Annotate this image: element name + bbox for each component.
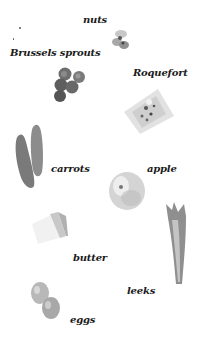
speck xyxy=(19,27,21,29)
apple-image xyxy=(107,170,147,212)
speck xyxy=(13,38,14,40)
leeks-image xyxy=(160,200,194,290)
carrots-image xyxy=(12,122,48,194)
food-illustration-page: nuts Brussels sprouts Roquefort carrots … xyxy=(0,0,207,343)
label-carrots: carrots xyxy=(51,163,90,174)
label-nuts: nuts xyxy=(83,14,107,25)
label-leeks: leeks xyxy=(127,285,155,296)
label-eggs: eggs xyxy=(70,314,95,325)
nuts-image xyxy=(108,26,132,52)
label-apple: apple xyxy=(147,163,177,174)
label-brussels-sprouts: Brussels sprouts xyxy=(10,47,100,58)
eggs-image xyxy=(29,281,63,321)
butter-image xyxy=(28,210,70,246)
label-butter: butter xyxy=(73,252,107,263)
roquefort-image xyxy=(118,86,176,136)
brussels-sprouts-image xyxy=(50,66,88,104)
label-roquefort: Roquefort xyxy=(133,67,188,78)
